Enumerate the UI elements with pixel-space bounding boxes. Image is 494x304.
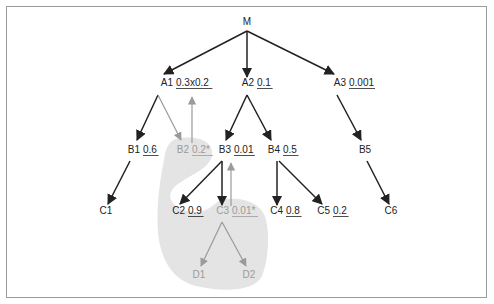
- node-b3: B30.01: [219, 144, 255, 156]
- node-value: 0.01*: [232, 205, 255, 216]
- node-name: A3: [334, 77, 347, 88]
- node-name: C4: [270, 205, 283, 216]
- node-name: A1: [161, 77, 174, 88]
- node-value: 0.2*: [192, 144, 210, 155]
- node-name: B4: [268, 144, 281, 155]
- node-c5: C50.2: [317, 205, 348, 217]
- node-b4: B40.5: [268, 144, 299, 156]
- edge-a2-b4: [247, 95, 271, 140]
- edge-a3-b5: [337, 95, 361, 140]
- edge-m-a1: [164, 31, 247, 74]
- node-name: C5: [317, 205, 330, 216]
- node-value: 0.1: [257, 77, 271, 88]
- node-name: B5: [359, 144, 372, 155]
- node-c2: C20.9: [172, 205, 203, 217]
- node-value: 0.9: [188, 205, 202, 216]
- node-name: B3: [219, 144, 232, 155]
- node-b5: B5: [359, 144, 372, 155]
- node-name: D1: [193, 269, 206, 280]
- node-value: 0.01: [234, 144, 254, 155]
- node-c4: C40.8: [270, 205, 301, 217]
- node-d2: D2: [243, 269, 256, 280]
- edge-a1-b1: [137, 95, 158, 140]
- edge-b1-c1: [108, 161, 130, 204]
- node-name: C1: [100, 205, 113, 216]
- node-c1: C1: [100, 205, 113, 216]
- edge-b4-c5: [279, 161, 322, 204]
- node-name: C3: [216, 205, 229, 216]
- edge-b5-c6: [367, 161, 389, 204]
- node-c6: C6: [385, 205, 398, 216]
- node-value: 0.5: [283, 144, 297, 155]
- node-name: C6: [385, 205, 398, 216]
- edge-m-a3: [247, 31, 334, 74]
- node-name: B1: [128, 144, 141, 155]
- node-a2: A20.1: [242, 77, 273, 89]
- node-name: D2: [243, 269, 256, 280]
- node-value: 0.001: [349, 77, 374, 88]
- node-b1: B10.6: [128, 144, 159, 156]
- node-name: B2: [177, 144, 190, 155]
- node-value: 0.2: [333, 205, 347, 216]
- edge-a2-b3: [226, 95, 247, 140]
- node-a1: A10.3x0.2: [161, 77, 213, 89]
- node-c3: C30.01*: [216, 205, 258, 217]
- edge-a1-b2: [158, 95, 181, 140]
- node-b2: B20.2*: [177, 144, 213, 156]
- node-value: 0.8: [286, 205, 300, 216]
- node-value: 0.3x0.2: [176, 77, 209, 88]
- node-name: C2: [172, 205, 185, 216]
- search-tree-diagram: MA10.3x0.2A20.1A30.001B10.6B20.2*B30.01B…: [0, 0, 494, 304]
- node-name: A2: [242, 77, 255, 88]
- node-m: M: [243, 16, 251, 27]
- node-name: M: [243, 16, 251, 27]
- node-a3: A30.001: [334, 77, 375, 89]
- node-value: 0.6: [143, 144, 157, 155]
- node-d1: D1: [193, 269, 206, 280]
